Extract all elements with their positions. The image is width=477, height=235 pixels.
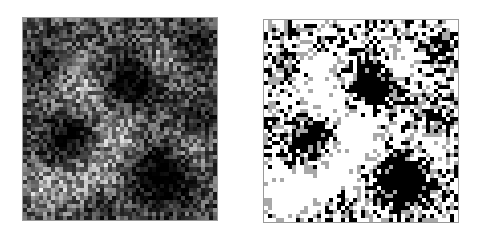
thresholded-field-image [264, 20, 458, 222]
thresholded-field-panel [263, 19, 459, 223]
grayscale-field-panel [22, 17, 218, 221]
grayscale-field-image [23, 18, 217, 220]
